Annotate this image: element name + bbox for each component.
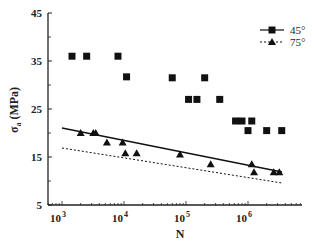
square-marker-icon [193, 96, 200, 103]
square-marker-icon [269, 27, 276, 34]
y-tick-label: 15 [31, 151, 43, 163]
legend-label-45: 45° [290, 24, 305, 36]
triangle-marker-icon [248, 160, 256, 167]
square-marker-icon [232, 118, 239, 125]
square-marker-icon [114, 53, 121, 60]
x-axis-label: N [176, 227, 185, 241]
square-marker-icon [263, 127, 270, 134]
triangle-marker-icon [103, 139, 111, 146]
x-tick-label: 106 [236, 210, 252, 224]
square-marker-icon [216, 96, 223, 103]
x-tick-label: 104 [112, 210, 128, 224]
square-marker-icon [245, 127, 252, 134]
y-tick-label: 35 [31, 55, 43, 67]
x-tick-label: 103 [50, 210, 66, 224]
fatigue-chart: 515253545 103104105106 N σa (MPa) 45° 75… [0, 0, 316, 244]
y-axis-label: σa (MPa) [7, 87, 23, 133]
square-marker-icon [238, 118, 245, 125]
data-points [69, 53, 286, 176]
triangle-marker-icon [250, 168, 258, 175]
y-tick-label: 5 [37, 199, 43, 211]
triangle-marker-icon [207, 160, 215, 167]
triangle-marker-icon [133, 149, 141, 156]
square-marker-icon [123, 73, 130, 80]
y-ticks: 515253545 [31, 7, 52, 211]
y-tick-label: 45 [31, 7, 43, 19]
square-marker-icon [83, 53, 90, 60]
legend: 45° 75° [260, 24, 305, 48]
y-tick-label: 25 [31, 103, 43, 115]
triangle-marker-icon [275, 168, 283, 175]
x-tick-label: 105 [174, 210, 190, 224]
triangle-marker-icon [121, 149, 129, 156]
square-marker-icon [248, 118, 255, 125]
square-marker-icon [169, 74, 176, 81]
square-marker-icon [69, 53, 76, 60]
square-marker-icon [278, 127, 285, 134]
square-marker-icon [185, 96, 192, 103]
legend-label-75: 75° [290, 36, 305, 48]
square-marker-icon [201, 74, 208, 81]
